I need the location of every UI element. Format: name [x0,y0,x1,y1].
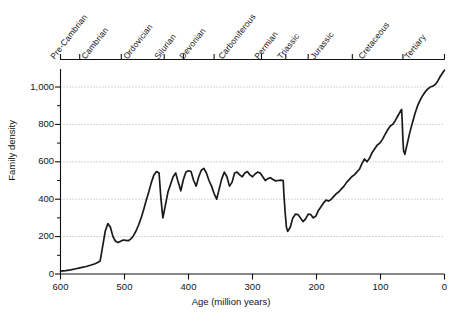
y-tick-label: 200 [12,230,54,241]
chart-figure: Family density Age (million years) 02004… [0,0,462,323]
x-tick-label: 200 [297,281,337,292]
y-tick-label: 1,000 [12,81,54,92]
y-tick-label: 800 [12,118,54,129]
x-tick-label: 400 [169,281,209,292]
x-tick-label: 0 [425,281,462,292]
x-tick-label: 500 [105,281,145,292]
x-tick-label: 600 [41,281,81,292]
y-tick-label: 600 [12,155,54,166]
y-axis-title: Family density [6,120,17,181]
x-tick-label: 100 [361,281,401,292]
y-tick-label: 400 [12,193,54,204]
x-tick-label: 300 [233,281,273,292]
x-axis-title: Age (million years) [0,296,462,307]
y-tick-label: 0 [12,268,54,279]
data-series-line [61,70,445,271]
